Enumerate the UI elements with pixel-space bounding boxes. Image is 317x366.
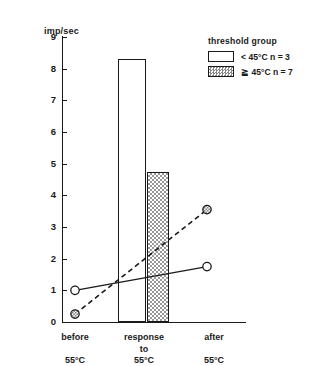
x-category-before: before 55°C	[40, 332, 110, 366]
y-tick-mark-6	[63, 132, 67, 133]
legend-swatch-hatched-icon	[208, 66, 234, 77]
legend: threshold group < 45°C n = 3 ≧ 45°C n = …	[208, 36, 312, 81]
y-tick-label-0: 0	[42, 316, 56, 327]
legend-label-ge-45: ≧ 45°C n = 7	[241, 67, 293, 77]
legend-row-lt-45: < 45°C n = 3	[208, 51, 312, 62]
series-marker-0-1	[203, 262, 211, 270]
y-tick-label-6: 6	[42, 126, 56, 137]
y-tick-label-9: 9	[42, 31, 56, 42]
series-marker-0-0	[71, 286, 79, 294]
y-tick-label-5: 5	[42, 158, 56, 169]
x-category-response-line2: to	[108, 344, 180, 356]
y-tick-mark-9	[63, 37, 67, 38]
bar-threshold-ge-45	[147, 172, 169, 322]
chart-figure: imp/sec 9876543210 before 55°C response …	[0, 0, 317, 366]
x-category-response-line1: response	[108, 332, 180, 344]
y-tick-mark-5	[63, 164, 67, 165]
y-tick-mark-8	[63, 69, 67, 70]
x-axis-line	[62, 322, 246, 323]
x-category-before-line1: before	[40, 332, 110, 344]
y-tick-mark-3	[63, 227, 67, 228]
y-tick-label-2: 2	[42, 253, 56, 264]
legend-row-ge-45: ≧ 45°C n = 7	[208, 66, 312, 77]
x-category-response-line3: 55°C	[108, 355, 180, 366]
y-tick-mark-4	[63, 195, 67, 196]
series-marker-1-1	[203, 205, 211, 213]
x-category-before-line2: 55°C	[40, 355, 110, 366]
y-tick-label-8: 8	[42, 63, 56, 74]
y-tick-mark-1	[63, 290, 67, 291]
x-category-after-line1: after	[180, 332, 248, 344]
y-tick-label-7: 7	[42, 94, 56, 105]
x-category-after: after 55°C	[180, 332, 248, 366]
y-tick-mark-0	[63, 322, 67, 323]
y-tick-label-3: 3	[42, 221, 56, 232]
x-category-response: response to 55°C	[108, 332, 180, 366]
y-tick-label-1: 1	[42, 284, 56, 295]
y-tick-mark-7	[63, 100, 67, 101]
bar-threshold-lt-45	[118, 59, 146, 322]
y-tick-mark-2	[63, 259, 67, 260]
series-marker-1-0	[71, 310, 79, 318]
x-category-after-line2: 55°C	[180, 355, 248, 366]
legend-label-lt-45: < 45°C n = 3	[241, 52, 290, 62]
legend-swatch-open-icon	[208, 51, 234, 62]
y-tick-label-4: 4	[42, 189, 56, 200]
legend-title: threshold group	[208, 36, 312, 46]
y-axis-line	[62, 36, 63, 323]
